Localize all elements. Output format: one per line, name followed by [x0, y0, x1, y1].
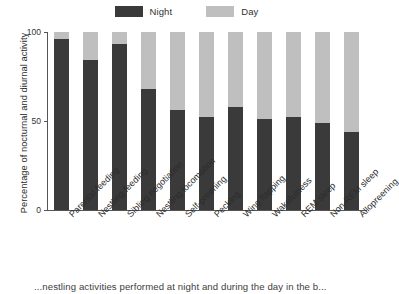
- x-tick-label: Allopreening: [357, 212, 364, 219]
- x-tick-label: Sibling negotiation: [125, 212, 132, 219]
- x-tick-label: Pecking: [212, 212, 219, 219]
- y-tick-mark-0: [44, 210, 47, 211]
- bar-segment-day[interactable]: [54, 32, 69, 39]
- bar-segment-day[interactable]: [112, 32, 127, 44]
- bar-segment-night[interactable]: [54, 39, 69, 210]
- x-tick-label: Nestling feeding: [96, 212, 103, 219]
- bar-segment-day[interactable]: [83, 32, 98, 60]
- x-tick-label: Non-REM sleep: [328, 212, 335, 219]
- y-tick-label-50: 50: [15, 116, 41, 126]
- y-tick-label-100: 100: [15, 27, 41, 37]
- bar-segment-day[interactable]: [141, 32, 156, 89]
- x-tick-label: Parental feeding: [67, 212, 74, 219]
- y-tick-label-0: 0: [15, 205, 41, 215]
- x-tick-label: Wing flapping: [241, 212, 248, 219]
- bar-segment-day[interactable]: [257, 32, 272, 119]
- bar-segment-day[interactable]: [199, 32, 214, 117]
- bar-segment-day[interactable]: [228, 32, 243, 107]
- figure-caption: ...nestling activities performed at nigh…: [34, 281, 374, 294]
- bar-segment-day[interactable]: [315, 32, 330, 123]
- bar-slot: [47, 32, 76, 210]
- x-tick-label: Nestling locomotion: [154, 212, 161, 219]
- bar-segment-day[interactable]: [170, 32, 185, 110]
- bar-stack[interactable]: [228, 32, 243, 210]
- x-tick-label: Wakefulness: [270, 212, 277, 219]
- bar-segment-day[interactable]: [286, 32, 301, 117]
- bar-stack[interactable]: [54, 32, 69, 210]
- x-tick-label: Self-preening: [183, 212, 190, 219]
- x-tick-label: REM sleep: [299, 212, 306, 219]
- bar-segment-day[interactable]: [344, 32, 359, 132]
- x-axis-tick-labels: Parental feedingNestling feedingSibling …: [47, 212, 366, 282]
- x-axis-line: [47, 210, 367, 211]
